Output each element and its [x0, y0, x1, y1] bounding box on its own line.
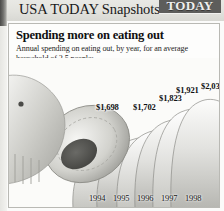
- header-bar: USA TODAY Snapshots® TODAY: [7, 0, 224, 21]
- value-label-1995: $1,702: [133, 102, 156, 112]
- year-label-1997: 1997: [161, 194, 177, 203]
- brand-title: USA TODAY Snapshots®: [19, 1, 165, 18]
- chart-panel: Spending more on eating out Annual spend…: [8, 23, 220, 208]
- value-label-1998: $2,030: [201, 81, 219, 91]
- logo-label: TODAY: [166, 0, 213, 13]
- left-gutter-lower: [0, 26, 7, 211]
- brand-text: USA TODAY Snapshots: [19, 1, 160, 17]
- chart-artwork: [9, 58, 219, 207]
- chart-title: Spending more on eating out: [16, 28, 164, 43]
- snapshot-graphic: USA TODAY Snapshots® TODAY Spending more…: [0, 0, 224, 211]
- year-label-1998: 1998: [185, 194, 201, 203]
- usa-today-logo: TODAY: [159, 0, 221, 13]
- year-label-1996: 1996: [137, 194, 153, 203]
- year-label-1995: 1995: [113, 194, 129, 203]
- artwork-svg: [9, 58, 219, 207]
- accent-dot: [18, 101, 23, 106]
- chart-panel-inner: Spending more on eating out Annual spend…: [9, 24, 219, 207]
- value-label-1994: $1,698: [96, 102, 119, 112]
- year-label-1994: 1994: [89, 194, 105, 203]
- value-label-1997: $1,921: [176, 85, 199, 95]
